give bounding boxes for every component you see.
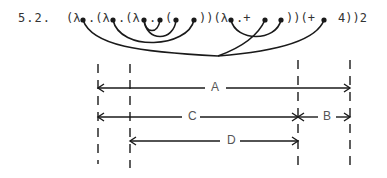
interval-label-a: A (208, 80, 222, 94)
binding-dots (80, 17, 326, 22)
binding-diagram (0, 0, 387, 178)
interval-label-b: B (320, 109, 334, 123)
binding-arcs (83, 20, 324, 56)
interval-label-d: D (224, 133, 239, 147)
interval-label-c: C (185, 109, 200, 123)
guide-lines (98, 60, 350, 168)
